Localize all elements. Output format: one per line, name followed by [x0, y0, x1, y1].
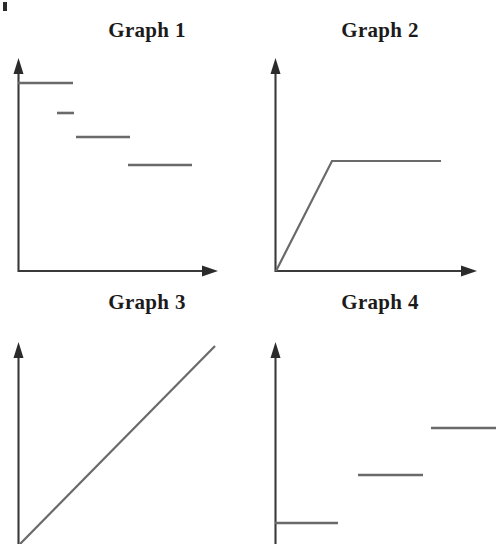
graph-4-canvas — [243, 272, 485, 544]
graph-panel-3: Graph 3 — [0, 272, 242, 544]
graph-3-y-axis-arrowhead — [14, 342, 24, 358]
graph-panel-1: Graph 1 — [0, 0, 242, 272]
graph-panel-2: Graph 2 — [243, 0, 485, 272]
graph-3-canvas — [0, 272, 242, 544]
graph-2-ramp-plateau-curve — [276, 161, 441, 271]
graph-2-canvas — [243, 0, 485, 272]
graph-1-canvas — [0, 0, 242, 272]
graph-1-y-axis-arrowhead — [14, 58, 24, 74]
graph-4-y-axis-arrowhead — [271, 342, 281, 358]
graph-panel-4: Graph 4 — [243, 272, 485, 544]
graph-2-y-axis-arrowhead — [271, 58, 281, 74]
graph-3-linear-line — [20, 346, 215, 544]
